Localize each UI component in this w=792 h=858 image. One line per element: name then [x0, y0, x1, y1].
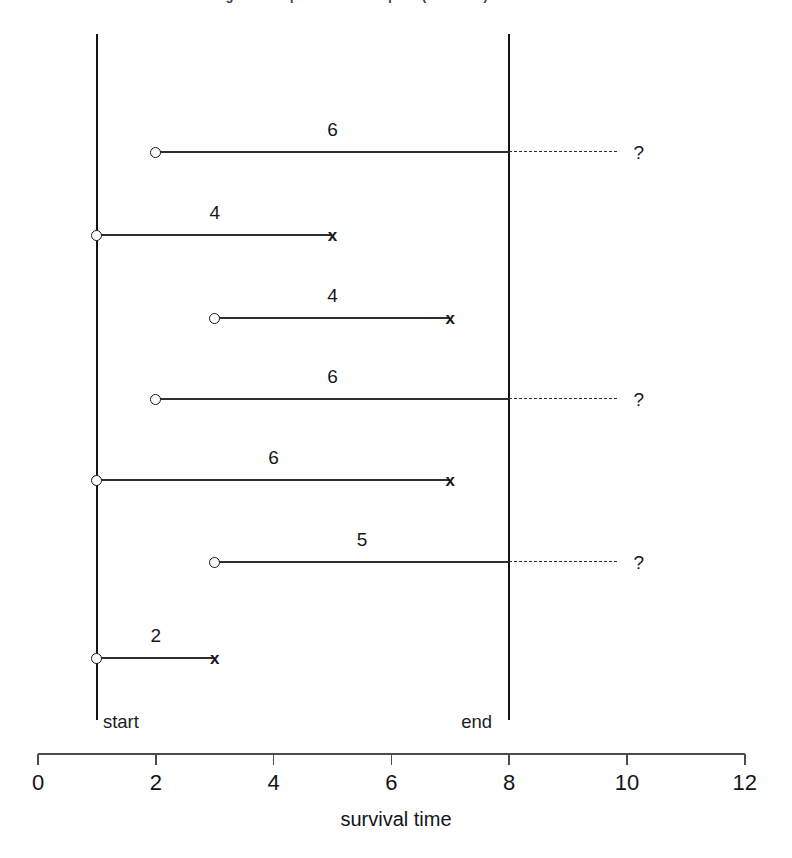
censored-dashed-segment [509, 151, 617, 152]
x-axis-tick-label: 4 [267, 772, 279, 794]
subject-survival-segment [215, 561, 510, 563]
subject-duration-label: 6 [327, 367, 338, 386]
subject-duration-label: 6 [268, 448, 279, 467]
censored-question-mark-icon: ? [633, 143, 644, 162]
x-axis-tick [508, 754, 510, 765]
censored-dashed-segment [509, 398, 617, 399]
entry-circle-icon [150, 394, 161, 405]
x-axis-tick-label: 0 [32, 772, 44, 794]
death-x-marker-icon: x [328, 227, 337, 244]
subject-survival-segment [215, 317, 451, 319]
entry-circle-icon [91, 230, 102, 241]
study-start-label: start [103, 713, 139, 732]
censored-question-mark-icon: ? [633, 390, 644, 409]
subject-duration-label: 2 [151, 626, 162, 645]
survival-time-plot: start end 6?4x4x6?6x5?2x 024681012 survi… [0, 0, 792, 858]
x-axis-tick-label: 10 [615, 772, 639, 794]
death-x-marker-icon: x [210, 650, 219, 667]
subject-duration-label: 4 [209, 203, 220, 222]
x-axis-tick [626, 754, 628, 765]
subject-survival-segment [97, 234, 333, 236]
study-end-line [508, 34, 510, 720]
subject-survival-segment [156, 398, 509, 400]
entry-circle-icon [91, 653, 102, 664]
subject-survival-segment [156, 151, 509, 153]
censored-dashed-segment [509, 561, 617, 562]
entry-circle-icon [209, 313, 220, 324]
subject-duration-label: 5 [357, 530, 368, 549]
x-axis-tick-label: 2 [150, 772, 162, 794]
x-axis-tick [273, 754, 275, 765]
entry-circle-icon [209, 557, 220, 568]
x-axis-title: survival time [0, 808, 792, 831]
subject-duration-label: 4 [327, 286, 338, 305]
entry-circle-icon [91, 475, 102, 486]
x-axis-tick [744, 754, 746, 765]
death-x-marker-icon: x [446, 472, 455, 489]
entry-circle-icon [150, 147, 161, 158]
subject-survival-segment [97, 479, 450, 481]
study-end-label: end [461, 713, 492, 732]
censored-question-mark-icon: ? [633, 553, 644, 572]
x-axis-tick [155, 754, 157, 765]
x-axis-tick-label: 8 [503, 772, 515, 794]
subject-survival-segment [97, 657, 215, 659]
x-axis-tick [391, 754, 393, 765]
x-axis-tick-label: 6 [385, 772, 397, 794]
study-start-line [96, 34, 98, 720]
death-x-marker-icon: x [446, 310, 455, 327]
subject-duration-label: 6 [327, 120, 338, 139]
x-axis-tick-label: 12 [733, 772, 757, 794]
x-axis-tick [37, 754, 39, 765]
